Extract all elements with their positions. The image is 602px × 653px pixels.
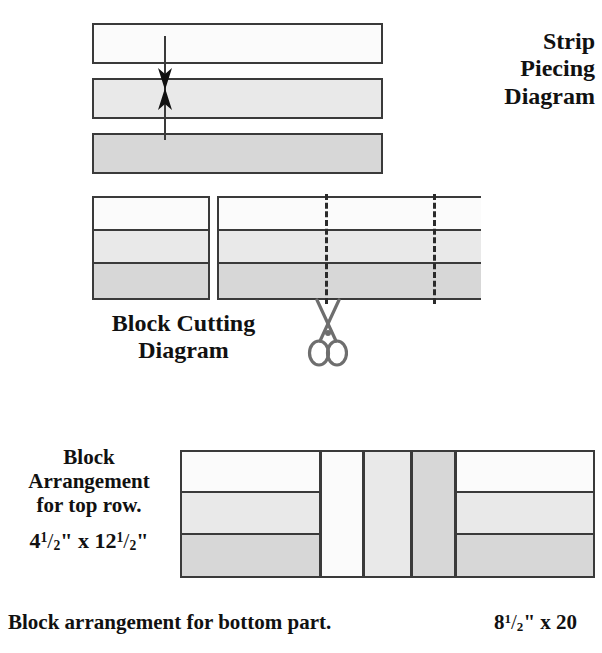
arrangement-block-right-band-white — [457, 452, 593, 493]
block-arrangement-dimension: 41/2" x 121/2" — [6, 528, 172, 553]
cut-block-single — [92, 196, 210, 300]
footer-dim-whole-1: 8 — [494, 610, 505, 634]
seam-direction-arrow — [150, 32, 180, 144]
block-arrangement-title-line-3: for top row. — [6, 494, 172, 518]
cut-line-1 — [325, 194, 328, 304]
arrangement-block-right — [455, 450, 595, 578]
strip-medium — [92, 133, 383, 174]
cut-block-single-band-light — [94, 231, 208, 264]
cut-block-single-band-white — [94, 198, 208, 231]
cut-block-strip-set-band-medium — [219, 264, 481, 298]
block-cutting-title-line-2: Diagram — [76, 337, 291, 364]
arrangement-strip-white — [320, 450, 364, 578]
footer-dimension: 81/2" x 20 — [494, 611, 577, 635]
strip-piecing-title-line-1: Strip — [395, 28, 595, 55]
arrangement-block-left-band-light — [182, 493, 319, 535]
quilting-instruction-diagram: Strip Piecing Diagram — [0, 0, 602, 653]
strip-piecing-title: Strip Piecing Diagram — [395, 28, 595, 110]
scissors-icon — [306, 298, 348, 374]
block-arrangement-title-line-1: Block — [6, 446, 172, 470]
footer-caption: Block arrangement for bottom part. — [8, 611, 331, 635]
arrangement-strip-light — [363, 450, 412, 578]
cut-block-strip-set-band-light — [219, 231, 481, 264]
block-arrangement-title: Block Arrangement for top row. — [6, 446, 172, 518]
strip-light — [92, 78, 383, 119]
arrangement-strip-medium — [411, 450, 456, 578]
cut-block-strip-set — [217, 196, 481, 300]
footer-dim-unit-1: " — [523, 610, 535, 634]
strip-piecing-title-line-2: Piecing — [395, 55, 595, 82]
dim-times: x — [78, 528, 89, 553]
block-cutting-title: Block Cutting Diagram — [76, 310, 291, 365]
footer-dim-whole-2: 20 — [556, 610, 577, 634]
block-cutting-title-line-1: Block Cutting — [76, 310, 291, 337]
dim-unit-2: " — [136, 528, 148, 553]
dim-whole-1: 4 — [30, 528, 41, 553]
dim-whole-2: 12 — [95, 528, 117, 553]
arrangement-block-left-band-medium — [182, 535, 319, 576]
footer-dim-times: x — [540, 610, 551, 634]
block-arrangement-title-line-2: Arrangement — [6, 470, 172, 494]
arrangement-block-left — [180, 450, 321, 578]
cut-line-2 — [433, 194, 436, 304]
cut-block-single-band-medium — [94, 264, 208, 298]
arrangement-block-right-band-medium — [457, 535, 593, 576]
strip-piecing-title-line-3: Diagram — [395, 83, 595, 110]
strip-white — [92, 23, 383, 64]
cut-block-strip-set-band-white — [219, 198, 481, 231]
arrangement-block-left-band-white — [182, 452, 319, 493]
dim-unit-1: " — [60, 528, 72, 553]
arrangement-block-right-band-light — [457, 493, 593, 535]
